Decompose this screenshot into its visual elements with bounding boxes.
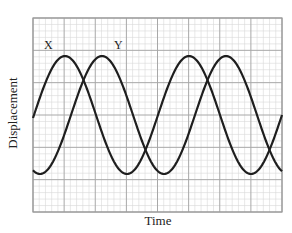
series-label-y: Y xyxy=(114,38,123,53)
x-axis-label: Time xyxy=(0,213,292,229)
series-label-x: X xyxy=(44,38,53,53)
wave-chart xyxy=(0,0,292,233)
y-axis-label: Displacement xyxy=(5,68,21,158)
